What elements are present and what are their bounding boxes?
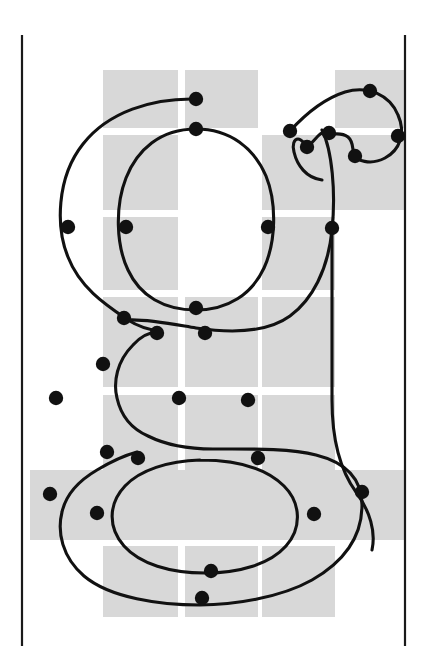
control-node-ear-top[interactable] xyxy=(363,84,377,98)
control-node-bowl-right[interactable] xyxy=(261,220,275,234)
control-node-bowl-top[interactable] xyxy=(189,122,203,136)
control-node-link-node-b[interactable] xyxy=(198,326,212,340)
control-node-ear-right[interactable] xyxy=(391,129,405,143)
control-node-counter-top-left[interactable] xyxy=(131,451,145,465)
control-node-link-left-upper[interactable] xyxy=(117,311,131,325)
control-node-descender-mid-a[interactable] xyxy=(172,391,186,405)
control-node-ear-notch-b[interactable] xyxy=(300,140,314,154)
control-node-link-left-curve[interactable] xyxy=(96,357,110,371)
control-node-counter-right[interactable] xyxy=(307,507,321,521)
control-node-bowl-bottom[interactable] xyxy=(189,301,203,315)
control-node-spur-left[interactable] xyxy=(49,391,63,405)
grid-cell xyxy=(335,135,405,210)
control-node-outer-left[interactable] xyxy=(61,220,75,234)
control-node-counter-left[interactable] xyxy=(90,506,104,520)
grid-cell xyxy=(103,217,178,290)
grid-layer xyxy=(30,70,405,617)
control-node-link-left-lower[interactable] xyxy=(100,445,114,459)
control-node-outer-top[interactable] xyxy=(189,92,203,106)
grid-cell xyxy=(103,135,178,210)
grid-cell xyxy=(335,70,405,128)
control-node-outer-right-lower[interactable] xyxy=(355,485,369,499)
control-node-ear-join[interactable] xyxy=(283,124,297,138)
figure-canvas xyxy=(0,0,436,664)
control-node-descender-mid-b[interactable] xyxy=(241,393,255,407)
control-node-bowl-left[interactable] xyxy=(119,220,133,234)
grid-cell xyxy=(185,470,258,540)
control-node-outer-bottom[interactable] xyxy=(195,591,209,605)
grid-cell xyxy=(335,470,405,540)
glyph-diagram-svg xyxy=(0,0,436,664)
control-node-counter-top-right[interactable] xyxy=(251,451,265,465)
control-node-outer-right[interactable] xyxy=(325,221,339,235)
control-node-outer-left-lower[interactable] xyxy=(43,487,57,501)
control-node-ear-inner-bottom[interactable] xyxy=(348,149,362,163)
grid-cell xyxy=(103,546,178,617)
control-node-ear-notch-a[interactable] xyxy=(322,126,336,140)
control-node-counter-bottom[interactable] xyxy=(204,564,218,578)
control-node-link-node-a[interactable] xyxy=(150,326,164,340)
